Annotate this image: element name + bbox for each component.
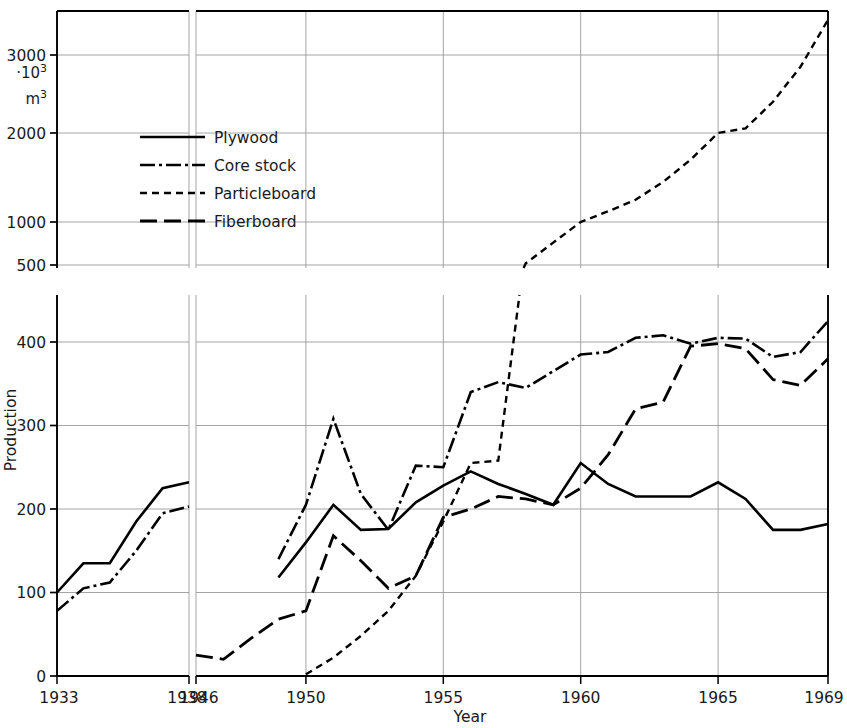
unit-volume: m — [25, 90, 40, 108]
y-tick-label-400: 400 — [16, 334, 46, 352]
legend-label-core-stock: Core stock — [214, 157, 296, 175]
production-line-chart: 5001000200030000100200300400 19331938194… — [0, 0, 847, 728]
series-line-right-particleboard-0 — [306, 295, 520, 674]
data-series-layer — [57, 20, 828, 674]
y-axis-tick-labels: 5001000200030000100200300400 — [7, 47, 46, 686]
unit-volume-exponent: 3 — [40, 88, 47, 101]
x-axis-tick-marks — [57, 676, 828, 684]
series-particleboard — [306, 20, 828, 674]
series-line-left-plywood — [57, 482, 189, 592]
y-tick-label-100: 100 — [16, 584, 46, 602]
x-tick-label-1955: 1955 — [424, 689, 463, 707]
chart-legend: PlywoodCore stockParticleboardFiberboard — [140, 129, 316, 231]
x-tick-label-1946: 1946 — [179, 689, 218, 707]
svg-text:·103: ·103 — [16, 62, 47, 82]
legend-label-plywood: Plywood — [214, 129, 278, 147]
series-line-right-fiberboard-0 — [196, 344, 828, 660]
chart-container: 5001000200030000100200300400 19331938194… — [0, 0, 847, 728]
y-axis-unit-label: ·103 m3 — [16, 62, 47, 108]
x-tick-label-1969: 1969 — [804, 689, 843, 707]
y-axis-title: Production — [2, 389, 20, 471]
series-line-left-core-stock — [57, 507, 189, 611]
legend-label-fiberboard: Fiberboard — [214, 213, 297, 231]
x-tick-label-1933: 1933 — [39, 689, 78, 707]
grid-lines-vertical — [189, 11, 718, 676]
y-tick-label-0: 0 — [36, 668, 46, 686]
y-tick-label-300: 300 — [16, 417, 46, 435]
series-core-stock — [57, 321, 828, 611]
x-axis-tick-labels: 19331938194619501955196019651969 — [39, 689, 843, 707]
unit-multiplier: ·10 — [16, 64, 40, 82]
series-fiberboard — [196, 344, 828, 660]
x-tick-label-1965: 1965 — [698, 689, 737, 707]
y-axis-tick-marks — [50, 55, 57, 676]
grid-lines-upper-panel — [57, 55, 828, 265]
svg-text:m3: m3 — [25, 88, 47, 108]
unit-multiplier-exponent: 3 — [40, 62, 47, 75]
y-tick-label-500: 500 — [16, 257, 46, 275]
y-tick-label-1000: 1000 — [7, 214, 46, 232]
series-plywood — [57, 463, 828, 592]
x-tick-label-1960: 1960 — [561, 689, 600, 707]
series-line-right-particleboard-1 — [524, 20, 828, 268]
series-line-right-core-stock-0 — [278, 321, 828, 559]
y-tick-label-2000: 2000 — [7, 125, 46, 143]
legend-label-particleboard: Particleboard — [214, 185, 316, 203]
x-tick-label-1950: 1950 — [286, 689, 325, 707]
y-tick-label-200: 200 — [16, 501, 46, 519]
x-axis-title: Year — [453, 708, 487, 726]
